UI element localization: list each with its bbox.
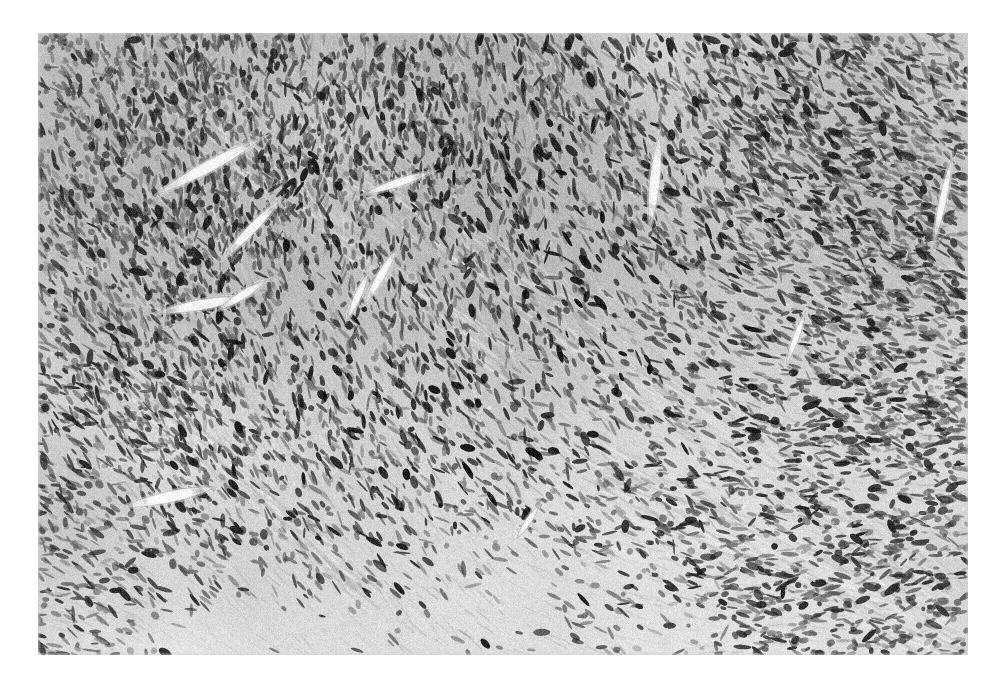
micrograph-canvas [38, 33, 968, 655]
page-root [0, 0, 998, 684]
micrograph-plate [38, 33, 968, 655]
